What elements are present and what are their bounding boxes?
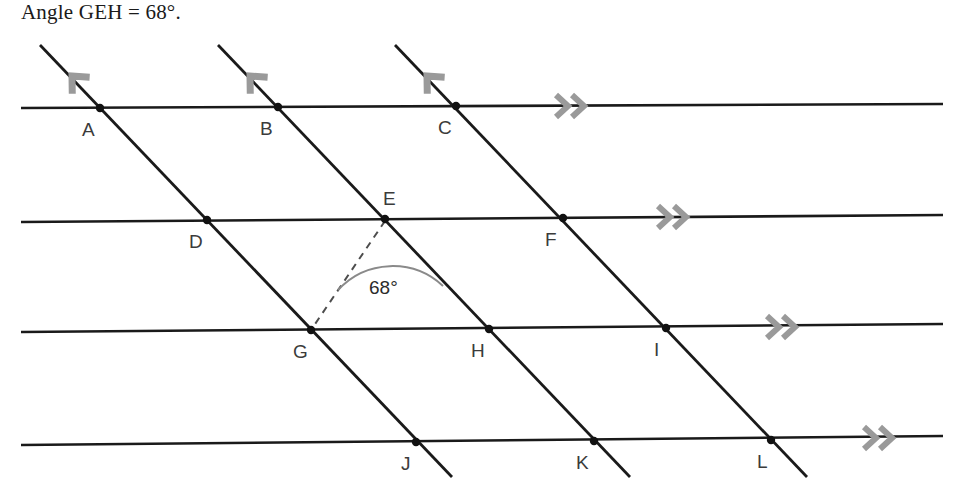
point-dot-A [96,104,104,112]
point-label-B: B [260,118,273,139]
diagonal-lines-group [40,45,807,477]
geometry-diagram-page: Angle GEH = 68°. [0,0,961,496]
point-label-H: H [471,340,485,361]
point-dot-G [307,326,315,334]
point-label-D: D [189,231,203,252]
horizontal-line-3 [21,324,943,332]
point-dot-J [412,438,420,446]
dashed-segment-EG [311,221,385,330]
horizontal-line-1 [21,104,943,108]
point-label-C: C [438,117,452,138]
point-dot-H [485,325,493,333]
horizontal-line-4 [21,436,943,445]
point-dot-I [662,324,670,332]
point-labels-group: A B C D E F G H I J K L [82,117,768,474]
angle-value-label: 68° [369,277,398,298]
point-label-I: I [654,339,659,360]
point-dot-E [381,215,389,223]
point-label-G: G [293,341,308,362]
point-dot-C [452,102,460,110]
point-dot-L [767,436,775,444]
point-dot-K [590,437,598,445]
point-dot-F [559,214,567,222]
horizontal-line-2 [21,215,943,222]
point-label-J: J [401,453,411,474]
point-label-E: E [383,188,396,209]
horizontal-lines-group [21,104,943,445]
double-chevron-markers-group [556,95,892,449]
point-label-L: L [757,451,768,472]
point-dot-B [274,103,282,111]
double-chevron-icon-3 [767,316,795,338]
point-dot-D [203,216,211,224]
point-label-F: F [545,229,557,250]
parallel-lines-figure: A B C D E F G H I J K L 68° [0,0,961,496]
point-label-A: A [82,119,95,140]
point-label-K: K [576,452,589,473]
